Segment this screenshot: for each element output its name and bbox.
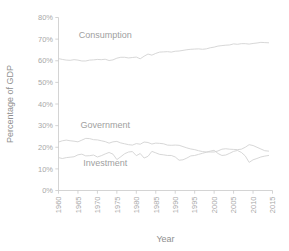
series-annotation-investment: Investment (83, 158, 128, 168)
x-axis-tick-label: 2015 (268, 197, 277, 214)
y-axis-tick-label: 10% (38, 165, 53, 174)
y-axis-tick-label: 60% (38, 56, 53, 65)
y-axis-tick-label: 50% (38, 78, 53, 87)
y-axis-tick-label: 40% (38, 100, 53, 109)
series-annotation-consumption: Consumption (79, 30, 132, 40)
series-annotation-government: Government (80, 120, 130, 130)
y-axis-tick-label: 70% (38, 35, 53, 44)
x-axis-tick-label: 1995 (190, 197, 199, 214)
y-axis-title: Percentage of GDP (5, 65, 15, 143)
x-axis-tick-label: 1970 (93, 197, 102, 214)
x-axis-tick-label: 1985 (152, 197, 161, 214)
x-axis-tick-label: 2010 (249, 197, 258, 214)
chart-plot-area: 0%10%20%30%40%50%60%70%80%19601965197019… (0, 0, 289, 251)
x-axis-title: Year (156, 234, 174, 244)
y-axis-tick-label: 80% (38, 13, 53, 22)
chart-figure: 0%10%20%30%40%50%60%70%80%19601965197019… (0, 0, 289, 251)
x-axis-tick-label: 1990 (171, 197, 180, 214)
data-line-consumption (59, 42, 269, 61)
y-axis-tick-label: 30% (38, 121, 53, 130)
x-axis-tick-label: 1975 (113, 197, 122, 214)
x-axis-tick-label: 2005 (229, 197, 238, 214)
x-axis-tick-label: 1965 (74, 197, 83, 214)
data-line-government (59, 138, 269, 152)
y-axis-tick-label: 0% (42, 186, 53, 195)
x-axis-tick-label: 1980 (132, 197, 141, 214)
y-axis-tick-label: 20% (38, 143, 53, 152)
x-axis-tick-label: 1960 (54, 197, 63, 214)
x-axis-tick-label: 2000 (210, 197, 219, 214)
